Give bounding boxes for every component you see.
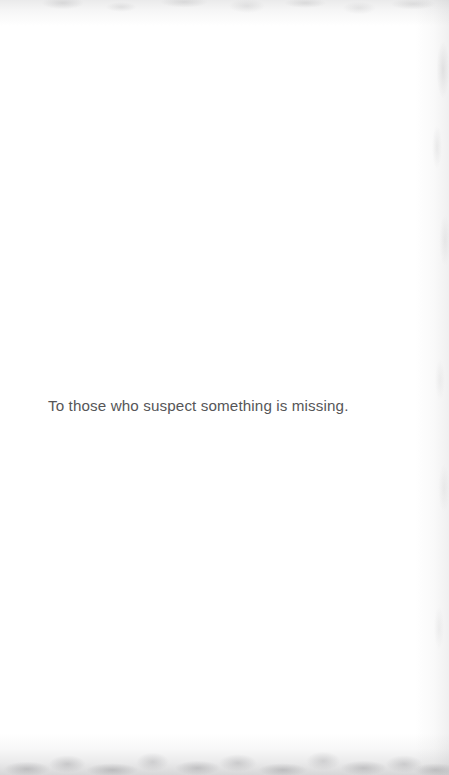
book-page: To those who suspect something is missin… [0, 0, 449, 775]
scan-edge-right-artifact [415, 0, 449, 775]
scan-edge-bottom-artifact [0, 733, 449, 775]
dedication-text: To those who suspect something is missin… [48, 396, 388, 415]
scan-edge-top-artifact [0, 0, 449, 26]
